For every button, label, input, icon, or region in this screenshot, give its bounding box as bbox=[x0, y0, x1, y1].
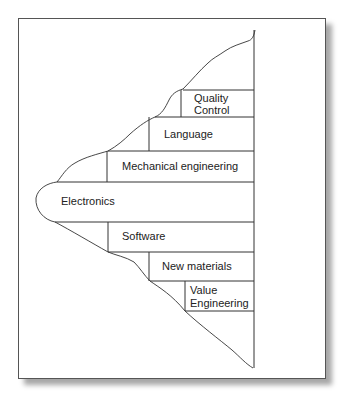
band-label-mechanical-engineering: Mechanical engineering bbox=[122, 160, 238, 172]
band-label-new-materials: New materials bbox=[162, 260, 232, 272]
band-label-control: Control bbox=[194, 104, 229, 116]
band-label-language: Language bbox=[164, 128, 213, 140]
band-label-value: Value bbox=[190, 284, 217, 296]
band-label-quality: Quality bbox=[194, 92, 229, 104]
band-label-software: Software bbox=[122, 230, 165, 242]
band-label-engineering: Engineering bbox=[190, 297, 249, 309]
band-label-electronics: Electronics bbox=[61, 195, 115, 207]
skill-profile-diagram: Quality Control Language Mechanical engi… bbox=[0, 0, 343, 396]
